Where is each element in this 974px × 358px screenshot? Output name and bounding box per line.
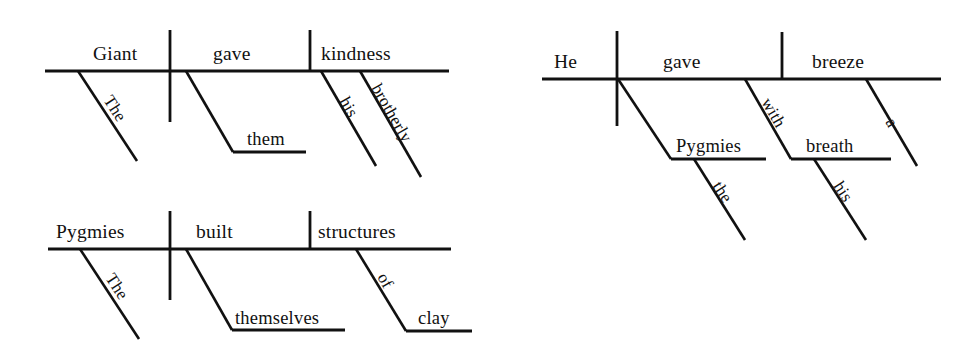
diagram-3-group: He gave breeze Pygmies the with breath h… <box>542 31 941 240</box>
diagram-1-indirect-object-branch <box>186 71 233 152</box>
diagram-3-indirect-object-modifier-label: the <box>709 178 737 206</box>
diagram-1-object-modifier-1-label: his <box>336 94 363 121</box>
diagram-3-indirect-object-branch <box>618 79 671 159</box>
diagram-2-group: Pygmies built structures The themselves … <box>48 211 472 339</box>
diagram-2-subject-modifier-label: The <box>102 270 133 303</box>
diagram-2-subject-modifier-line <box>80 249 139 339</box>
diagram-1-subject-modifier-line <box>78 71 137 161</box>
diagram-3-prep-object-label: breath <box>806 136 853 156</box>
diagram-1-verb-label: gave <box>213 43 251 64</box>
diagram-1-subject-modifier-label: The <box>100 92 131 125</box>
diagram-3-indirect-object-label: Pygmies <box>676 136 741 156</box>
diagram-1-indirect-object-label: them <box>247 129 285 149</box>
diagrams-svg-root: Giant gave kindness The them his brother… <box>0 0 974 358</box>
sentence-diagram-canvas: Giant gave kindness The them his brother… <box>0 0 974 358</box>
diagram-3-subject-label: He <box>554 51 577 72</box>
diagram-3-preposition-label: with <box>758 95 790 132</box>
diagram-1-object-label: kindness <box>321 43 391 64</box>
diagram-3-verb-label: gave <box>663 51 701 72</box>
diagram-3-object-modifier-label: a <box>882 115 902 131</box>
diagram-2-indirect-object-label: themselves <box>235 308 319 328</box>
diagram-3-object-label: breeze <box>812 51 864 72</box>
diagram-3-prep-object-modifier-label: his <box>830 178 857 206</box>
diagram-2-verb-label: built <box>196 221 233 242</box>
diagram-1-subject-label: Giant <box>93 43 138 64</box>
diagram-2-object-label: structures <box>318 221 396 242</box>
diagram-2-preposition-label: of <box>374 270 398 292</box>
diagram-2-subject-label: Pygmies <box>56 221 125 242</box>
diagram-1-group: Giant gave kindness The them his brother… <box>45 30 449 177</box>
diagram-1-object-modifier-2-label: brotherly <box>368 81 417 146</box>
diagram-2-indirect-object-branch <box>186 249 232 330</box>
diagram-2-prep-object-label: clay <box>418 308 450 328</box>
